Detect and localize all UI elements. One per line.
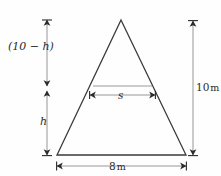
geometry-figure: (10 − h) h 10 m 8 m s [0,0,221,176]
figure-canvas [0,0,221,176]
chord-width-label: s [118,90,123,101]
base-width-label-value: 8 [109,160,116,172]
lower-height-label: h [40,116,47,127]
upper-height-label: (10 − h) [8,41,54,52]
total-height-label: 10 m [196,82,219,93]
upper-height-dimension [42,20,52,87]
total-height-label-unit: m [210,82,219,93]
triangle-outline [57,20,186,155]
base-width-label-unit: m [117,161,126,172]
base-width-label: 8 m [109,161,126,172]
total-height-label-value: 10 [196,81,209,93]
